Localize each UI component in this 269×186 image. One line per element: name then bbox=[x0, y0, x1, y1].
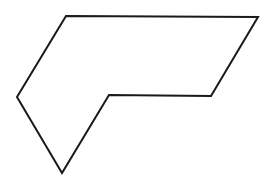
diagram-canvas bbox=[0, 0, 269, 186]
irregular-hexagon-shape bbox=[17, 16, 258, 173]
polygon-diagram bbox=[0, 0, 269, 186]
